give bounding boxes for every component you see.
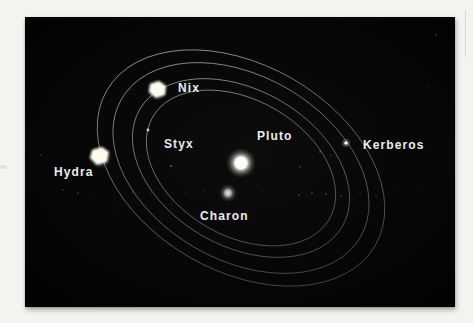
hydra-label: Hydra [54, 166, 94, 179]
noise-speckle [231, 225, 233, 227]
noise-speckle [116, 207, 118, 209]
noise-speckle [170, 165, 172, 167]
noise-speckle [428, 86, 430, 88]
nix-label: Nix [178, 82, 200, 95]
noise-speckle [319, 151, 321, 153]
charon-label: Charon [200, 210, 249, 223]
noise-speckle [261, 190, 263, 192]
noise-speckle [299, 166, 301, 168]
noise-speckle [159, 226, 160, 227]
page: { "page": { "background_color": "#f5f3f0… [0, 0, 473, 323]
noise-speckle [150, 193, 152, 195]
pluto-label: Pluto [257, 130, 293, 143]
noise-speckle [369, 119, 370, 120]
noise-speckle [359, 192, 361, 194]
noise-speckle [77, 192, 79, 194]
nix-body [146, 79, 168, 101]
noise-speckle [394, 190, 396, 192]
noise-speckle [435, 34, 437, 36]
charon-body [219, 184, 237, 202]
page-edge-smudge [0, 165, 7, 169]
orbit-svg [25, 17, 455, 307]
noise-speckle [311, 192, 313, 194]
pluto-system-figure: Pluto Charon Nix Styx Kerberos Hydra [25, 17, 455, 307]
kerberos-body [342, 139, 350, 147]
noise-speckle [298, 194, 300, 196]
noise-speckle [330, 154, 332, 156]
noise-speckle [132, 191, 134, 193]
noise-speckle [325, 193, 327, 195]
bodies-group [88, 79, 350, 202]
styx-label: Styx [164, 138, 194, 151]
noise-speckle [62, 189, 64, 191]
noise-speckle [419, 189, 420, 190]
page-edge-artifact-line [465, 10, 466, 57]
kerberos-label: Kerberos [363, 139, 425, 152]
pluto-body [226, 148, 256, 178]
noise-speckle [375, 195, 377, 197]
noise-speckles [40, 34, 437, 228]
noise-speckle [310, 167, 312, 169]
noise-speckle [89, 193, 91, 195]
styx-body [147, 129, 150, 132]
noise-speckle [40, 154, 42, 156]
noise-speckle [204, 189, 206, 191]
noise-speckle [185, 192, 187, 194]
noise-speckle [340, 195, 342, 197]
